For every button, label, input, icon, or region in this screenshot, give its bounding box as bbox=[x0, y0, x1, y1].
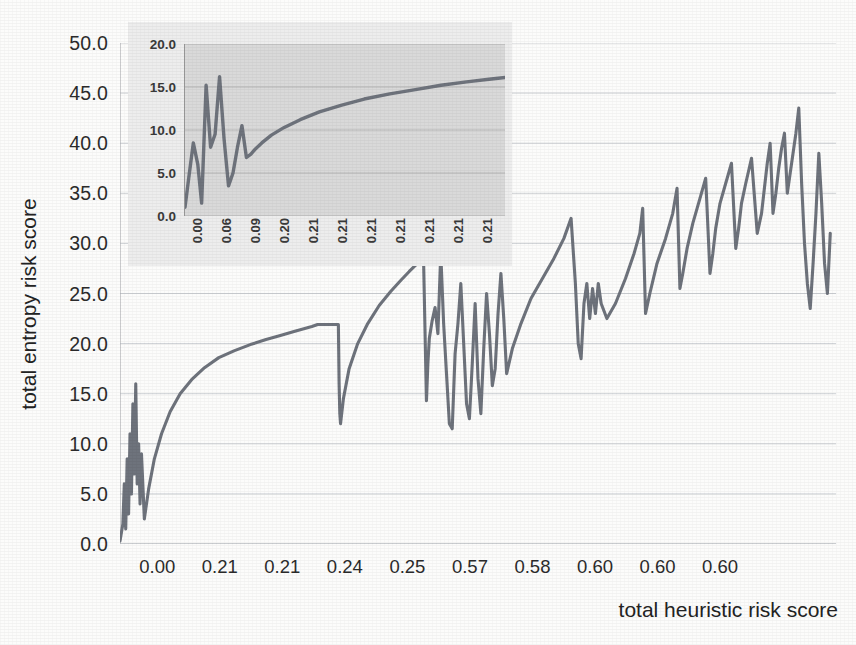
x-axis-title: total heuristic risk score bbox=[0, 598, 838, 622]
y-tick-label: 30.0 bbox=[69, 232, 108, 255]
inset-x-tick-label: 0.21 bbox=[393, 218, 408, 243]
inset-x-tick-label: 0.09 bbox=[248, 218, 263, 243]
inset-x-tick-label: 0.06 bbox=[219, 218, 234, 243]
inset-plot-area bbox=[184, 44, 505, 216]
figure-page: 0.05.010.015.020.025.030.035.040.045.050… bbox=[0, 0, 856, 645]
y-tick-label: 35.0 bbox=[69, 182, 108, 205]
inset-y-tick-label: 0.0 bbox=[157, 209, 176, 224]
inset-x-axis-tick-labels: 0.000.060.090.200.210.210.210.210.210.21… bbox=[184, 218, 504, 270]
inset-chart: 0.05.010.015.020.0 0.000.060.090.200.210… bbox=[128, 22, 512, 266]
inset-y-tick-label: 15.0 bbox=[150, 80, 176, 95]
x-axis-tick-labels: 0.000.210.210.240.250.570.580.600.600.60 bbox=[120, 556, 836, 586]
y-axis-title: total entropy risk score bbox=[17, 119, 41, 489]
inset-x-tick-label: 0.21 bbox=[480, 218, 495, 243]
inset-y-axis-tick-labels: 0.05.010.015.020.0 bbox=[128, 22, 180, 232]
y-tick-label: 40.0 bbox=[69, 132, 108, 155]
inset-x-tick-label: 0.21 bbox=[451, 218, 466, 243]
y-tick-label: 5.0 bbox=[80, 482, 108, 505]
inset-y-tick-label: 10.0 bbox=[150, 123, 176, 138]
y-tick-label: 25.0 bbox=[69, 282, 108, 305]
x-tick-label: 0.60 bbox=[577, 556, 613, 578]
x-tick-label: 0.57 bbox=[452, 556, 488, 578]
x-tick-label: 0.21 bbox=[264, 556, 300, 578]
inset-x-tick-label: 0.21 bbox=[364, 218, 379, 243]
inset-x-tick-label: 0.00 bbox=[190, 218, 205, 243]
inset-y-tick-label: 5.0 bbox=[157, 166, 176, 181]
y-tick-label: 10.0 bbox=[69, 432, 108, 455]
inset-x-tick-label: 0.20 bbox=[277, 218, 292, 243]
y-tick-label: 0.0 bbox=[80, 533, 108, 556]
x-tick-label: 0.60 bbox=[640, 556, 676, 578]
x-tick-label: 0.25 bbox=[389, 556, 425, 578]
y-tick-label: 45.0 bbox=[69, 82, 108, 105]
y-tick-label: 50.0 bbox=[69, 32, 108, 55]
x-tick-label: 0.58 bbox=[514, 556, 550, 578]
x-tick-label: 0.60 bbox=[702, 556, 738, 578]
y-tick-label: 20.0 bbox=[69, 332, 108, 355]
inset-x-tick-label: 0.21 bbox=[306, 218, 321, 243]
x-tick-label: 0.21 bbox=[202, 556, 238, 578]
y-tick-label: 15.0 bbox=[69, 382, 108, 405]
inset-x-tick-label: 0.21 bbox=[422, 218, 437, 243]
x-tick-label: 0.24 bbox=[327, 556, 363, 578]
inset-series-line bbox=[185, 44, 505, 216]
inset-x-tick-label: 0.21 bbox=[335, 218, 350, 243]
x-tick-label: 0.00 bbox=[139, 556, 175, 578]
inset-y-tick-label: 20.0 bbox=[150, 37, 176, 52]
